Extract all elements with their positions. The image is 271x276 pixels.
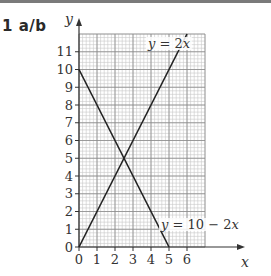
x-tick-label: 2	[111, 252, 119, 267]
x-tick-label: 3	[129, 252, 137, 267]
y-tick-label: 2	[65, 204, 73, 219]
x-tick-label: 5	[165, 252, 173, 267]
y-tick-label: 8	[65, 98, 73, 113]
y-tick-label: 3	[65, 186, 73, 201]
y-tick-label: 9	[65, 80, 73, 95]
y-tick-label: 11	[56, 44, 73, 59]
series-label: y = 2x	[147, 36, 191, 51]
series-labels: y = 2xy = 10 − 2x	[146, 36, 241, 232]
x-tick-label: 4	[147, 252, 155, 267]
y-axis-title: y	[64, 11, 74, 27]
x-tick-label: 6	[183, 252, 191, 267]
x-tick-label: 1	[93, 252, 101, 267]
y-tick-label: 7	[65, 115, 73, 130]
x-axis-title: x	[241, 254, 249, 270]
y-tick-label: 10	[56, 62, 73, 77]
y-tick-label: 0	[65, 240, 73, 255]
y-tick-label: 6	[65, 133, 73, 148]
y-tick-label: 4	[65, 169, 73, 184]
y-tick-label: 1	[65, 222, 73, 237]
series-label: y = 10 − 2x	[160, 217, 240, 232]
y-tick-label: 5	[65, 151, 73, 166]
x-tick-label: 0	[75, 252, 83, 267]
line-chart: 012345601234567891011xy y = 2xy = 10 − 2…	[0, 0, 271, 276]
